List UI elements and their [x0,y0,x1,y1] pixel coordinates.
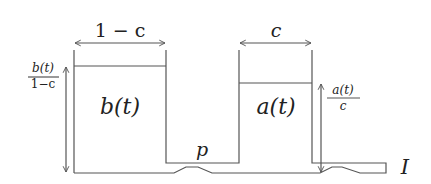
diagram-canvas: 1 − c c b(t) a(t) b(t) 1−c a(t) c p I [0,0,431,184]
left-area-label: b(t) [100,94,140,119]
right-width-label: c [271,19,282,41]
left-height-denominator: 1−c [31,77,56,91]
left-height-numerator: b(t) [32,61,54,75]
interval-label: I [400,155,410,179]
right-height-numerator: a(t) [332,83,354,97]
right-height-denominator: c [340,99,347,113]
right-area-label: a(t) [256,94,295,119]
middle-label: p [196,138,208,160]
left-width-label: 1 − c [95,19,146,41]
